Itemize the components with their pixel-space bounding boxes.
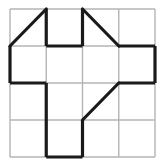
- diagonal-lower-middle-cell: [83, 83, 119, 120]
- diagonal-top-col2-cell: [83, 9, 119, 46]
- figure-panel: [0, 0, 165, 166]
- grid-figure-svg: [0, 0, 165, 166]
- diagonal-top-left-cell: [10, 9, 46, 46]
- figure-diagonals: [10, 9, 119, 120]
